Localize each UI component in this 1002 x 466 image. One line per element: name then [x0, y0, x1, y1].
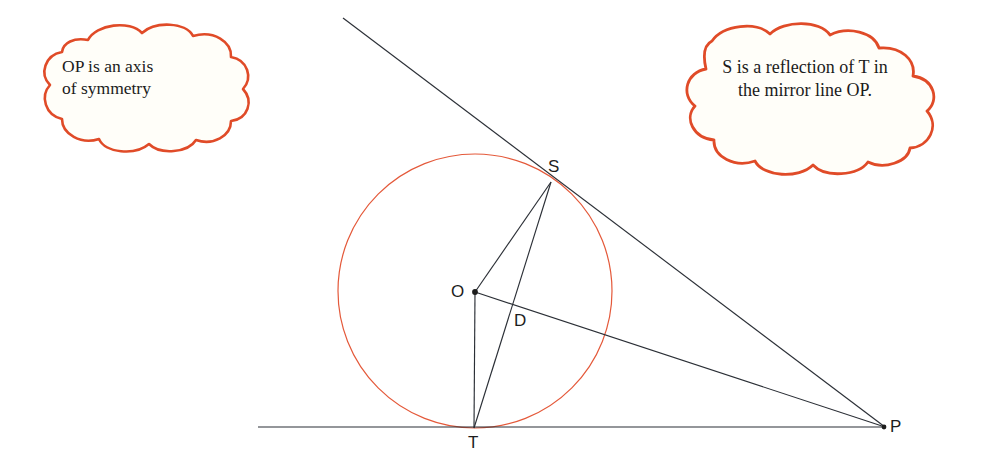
callout-left-shape — [44, 25, 248, 152]
point-dot-P — [882, 425, 887, 430]
geometry-figure — [0, 0, 1002, 466]
diagram-canvas: OP is an axis of symmetry S is a reflect… — [0, 0, 1002, 466]
callout-right-bubble — [687, 24, 934, 175]
callout-left-bubble — [44, 25, 248, 152]
chord-S-to-T — [474, 182, 551, 428]
point-dot-O — [472, 289, 478, 295]
callout-right-shape — [687, 24, 934, 175]
line-O-to-P — [475, 292, 885, 427]
radius-O-to-T — [474, 292, 475, 428]
radius-O-to-S — [475, 182, 551, 292]
